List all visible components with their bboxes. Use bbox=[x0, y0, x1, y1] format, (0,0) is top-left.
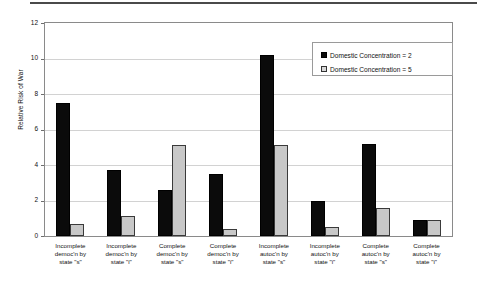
legend-item: Domestic Concentration = 5 bbox=[321, 64, 412, 74]
bar bbox=[325, 227, 339, 236]
y-tick-label: 4 bbox=[22, 162, 38, 169]
y-tick-label: 10 bbox=[22, 55, 38, 62]
legend-label: Domestic Concentration = 5 bbox=[330, 66, 412, 73]
x-tick-label-line: autoc'n by bbox=[396, 250, 458, 258]
bar bbox=[209, 174, 223, 236]
bar-chart-figure: Relative Risk of War 024681012 Incomplet… bbox=[0, 0, 477, 285]
x-tick-label-line: state "i" bbox=[396, 258, 458, 266]
y-tick-label: 2 bbox=[22, 197, 38, 204]
bar bbox=[274, 145, 288, 236]
y-tick-label: 8 bbox=[22, 91, 38, 98]
y-tick-label: 6 bbox=[22, 126, 38, 133]
bar bbox=[427, 220, 441, 236]
legend-item: Domestic Concentration = 2 bbox=[321, 50, 412, 60]
bar bbox=[223, 229, 237, 236]
bar bbox=[362, 144, 376, 236]
bar bbox=[260, 55, 274, 236]
y-tick-label: 12 bbox=[22, 20, 38, 27]
legend-swatch-gray bbox=[321, 66, 327, 72]
chart-legend: Domestic Concentration = 2Domestic Conce… bbox=[312, 42, 453, 76]
bar bbox=[172, 145, 186, 236]
bar bbox=[56, 103, 70, 236]
y-tick-label: 0 bbox=[22, 233, 38, 240]
legend-swatch-black bbox=[321, 52, 327, 58]
bar bbox=[376, 208, 390, 236]
x-tick-label-line: Complete bbox=[396, 242, 458, 250]
bar bbox=[158, 190, 172, 236]
gridline bbox=[45, 94, 452, 95]
gridline bbox=[45, 130, 452, 131]
bar bbox=[311, 201, 325, 237]
bar bbox=[121, 216, 135, 236]
x-tick-label: Completeautoc'n bystate "i" bbox=[396, 242, 458, 267]
legend-label: Domestic Concentration = 2 bbox=[330, 52, 412, 59]
bar bbox=[70, 224, 84, 236]
gridline bbox=[45, 165, 452, 166]
gridline bbox=[45, 201, 452, 202]
bar bbox=[413, 220, 427, 236]
bar bbox=[107, 170, 121, 236]
